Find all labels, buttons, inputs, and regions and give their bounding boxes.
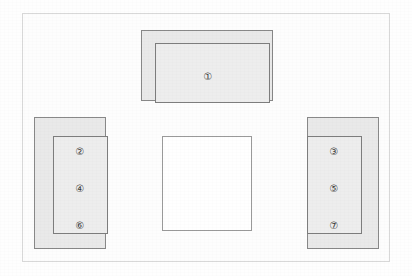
- top-block[interactable]: ①: [141, 30, 273, 101]
- center-open-area[interactable]: [162, 136, 252, 231]
- seat-label-4: ④: [70, 184, 90, 194]
- page-frame: ① ② ④ ⑥ ③ ⑤ ⑦: [22, 13, 390, 262]
- seat-label-6: ⑥: [70, 221, 90, 231]
- seat-label-2: ②: [70, 147, 90, 157]
- seat-label-7: ⑦: [324, 221, 344, 231]
- seat-label-3: ③: [324, 147, 344, 157]
- left-block[interactable]: ② ④ ⑥: [34, 117, 106, 249]
- diagram-canvas: ① ② ④ ⑥ ③ ⑤ ⑦: [0, 0, 412, 276]
- seat-label-1: ①: [198, 72, 218, 82]
- seat-label-5: ⑤: [324, 184, 344, 194]
- right-block[interactable]: ③ ⑤ ⑦: [307, 117, 379, 249]
